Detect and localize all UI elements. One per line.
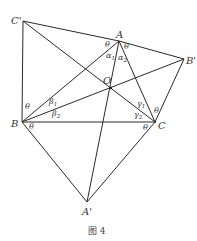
angle-alpha2: α2	[118, 53, 127, 63]
label-A-prime: A'	[81, 206, 92, 217]
segment-C-Ap	[87, 122, 155, 202]
label-O: O	[103, 75, 111, 86]
angle-theta-C-upper: θ	[154, 106, 159, 115]
label-C: C	[158, 120, 166, 131]
label-A: A	[115, 29, 123, 40]
segment-Cp-B	[22, 21, 23, 122]
segment-Cp-A	[23, 21, 119, 41]
label-B: B	[10, 118, 18, 129]
segment-Cp-C	[23, 21, 155, 122]
geometry-figure: C' A B' O B C A' θ θ α1 α2 θ θ β1 β2 γ1 …	[0, 0, 197, 241]
angle-theta-A-left: θ	[105, 40, 110, 49]
figure-caption: 图 4	[88, 226, 106, 236]
angle-theta-C-lower: θ	[143, 123, 148, 132]
segment-B-Ap	[22, 122, 87, 202]
label-C-prime: C'	[11, 15, 21, 26]
angle-beta1: β1	[48, 97, 57, 107]
angle-theta-B-lower: θ	[29, 122, 34, 131]
angle-theta-B-upper: θ	[25, 102, 30, 111]
angle-gamma1: γ1	[137, 99, 145, 109]
angle-alpha1: α1	[106, 51, 115, 61]
point-O-dot	[110, 87, 112, 89]
label-B-prime: B'	[185, 55, 196, 66]
angle-theta-A-right: θ	[124, 42, 129, 51]
point-C-dot	[154, 121, 156, 123]
angle-beta2: β2	[51, 109, 61, 119]
